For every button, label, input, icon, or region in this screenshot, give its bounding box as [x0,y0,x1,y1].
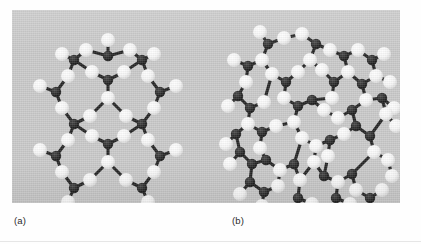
subfigure-caption-b: (b) [232,215,244,226]
crystalline-structure-diagram [12,10,206,203]
amorphous-structure-diagram [206,10,400,203]
page-divider-rule [0,241,421,242]
figure-image-panel [12,10,400,203]
figure-root: (a) (b) [0,0,421,244]
oxygen-atom-group-b [219,25,400,203]
subfigure-caption-a: (a) [14,215,26,226]
